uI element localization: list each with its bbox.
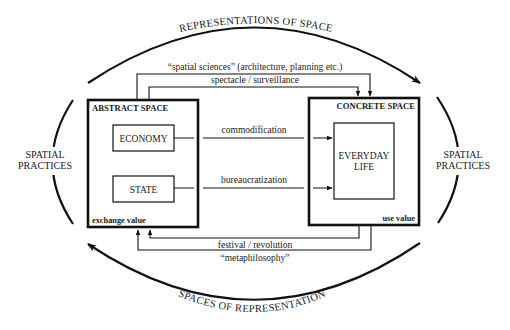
commodification-label: commodification xyxy=(222,125,287,135)
economy-label: ECONOMY xyxy=(119,134,167,144)
bottom-arc-arrow xyxy=(88,243,420,300)
everyday-life-label-line2: LIFE xyxy=(354,162,374,172)
festival-revolution-label: festival / revolution xyxy=(218,240,293,250)
concrete-space-box: CONCRETE SPACE use value EVERYDAY LIFE xyxy=(309,98,419,225)
everyday-life-label-line1: EVERYDAY xyxy=(339,151,390,161)
right-side-label-line2: PRACTICES xyxy=(436,160,490,171)
state-label: STATE xyxy=(130,185,158,195)
economy-box: ECONOMY xyxy=(113,125,174,151)
state-box: STATE xyxy=(113,176,174,202)
bureaucratization-label: bureaucratization xyxy=(221,175,287,185)
left-side-label-line2: PRACTICES xyxy=(18,160,72,171)
metaphilosophy-label: “metaphilosophy” xyxy=(220,253,289,263)
abstract-space-title: ABSTRACT SPACE xyxy=(92,103,169,113)
spatial-triad-diagram: REPRESENTATIONS OF SPACE SPACES OF REPRE… xyxy=(0,0,510,330)
concrete-space-title: CONCRETE SPACE xyxy=(337,101,416,111)
left-side-label-line1: SPATIAL xyxy=(25,149,64,160)
spectacle-surveillance-label: spectacle / surveillance xyxy=(211,75,299,85)
top-arc-label: REPRESENTATIONS OF SPACE xyxy=(178,14,334,33)
right-side-label-line1: SPATIAL xyxy=(443,149,482,160)
spatial-sciences-label: “spatial sciences” (architecture, planni… xyxy=(168,62,343,73)
everyday-life-box: EVERYDAY LIFE xyxy=(334,123,394,199)
use-value-label: use value xyxy=(383,214,416,223)
exchange-value-label: exchange value xyxy=(92,216,146,225)
abstract-space-box: ABSTRACT SPACE exchange value ECONOMY ST… xyxy=(88,100,198,227)
